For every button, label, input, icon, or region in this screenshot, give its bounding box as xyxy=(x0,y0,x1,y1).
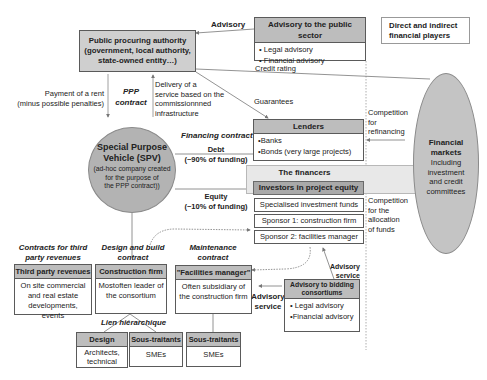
sous-traitants-facilities-box: Sous-traitants SMEs xyxy=(186,332,241,367)
advisory-public-sector-box: Advisory to the public sector • Legal ad… xyxy=(254,17,366,61)
public-authority-title: Public procuring authority xyxy=(80,36,195,46)
advisory-bidding-title-line2: consortiums xyxy=(285,289,359,297)
advisory-label: Advisory xyxy=(211,20,245,30)
design-build-label: Design and build contract xyxy=(98,243,168,262)
lenders-box: Lenders •Banks •Bonds (very large projec… xyxy=(253,119,364,161)
third-party-contracts-label: Contracts for third party revenues xyxy=(10,243,96,262)
lenders-item: •Banks xyxy=(258,136,359,147)
delivery-label: Delivery of a service based on the commi… xyxy=(155,80,224,118)
investors-header: Investors in project equity xyxy=(253,181,364,195)
credit-rating-label: Credit rating xyxy=(255,64,296,74)
advisory-service-label-top: Advisory service xyxy=(322,263,360,280)
advisory-bidding-box: Advisory to bidding consortiums • Legal … xyxy=(284,279,360,332)
competition-refinancing-label: Competition for refinancing xyxy=(368,108,408,137)
advisory-service-label-side: Advisory service xyxy=(251,292,285,312)
investor-item-funds: Specialised investment funds xyxy=(254,198,364,212)
spv-circle: Special Purpose Vehicle (SPV) (ad-hoc co… xyxy=(88,127,176,213)
spv-title-line2: Vehicle (SPV) xyxy=(89,153,175,164)
financial-markets-ellipse: Financial markets Including investment a… xyxy=(413,73,479,254)
financial-markets-title-line2: markets xyxy=(414,148,478,158)
lenders-title: Lenders xyxy=(254,120,363,134)
financial-markets-title-line1: Financial xyxy=(414,138,478,148)
financers-title: The financers xyxy=(247,168,362,178)
construction-title: Construction firm xyxy=(96,265,166,279)
sous-traitants-construction-box: Sous-traitants SMEs xyxy=(129,332,183,367)
advisory-bidding-title-line1: Advisory to bidding xyxy=(285,281,359,289)
guarantees-label: Guarantees xyxy=(254,97,293,107)
lenders-item: •Bonds (very large projects) xyxy=(258,147,359,158)
public-procuring-authority-box: Public procuring authority (government, … xyxy=(79,30,196,72)
advisory-bidding-item: • Legal advisory xyxy=(290,301,354,312)
financing-contract-label: Financing contract xyxy=(181,131,253,141)
facilities-manager-box: "Facilities manager" Often subsidiary of… xyxy=(175,265,252,314)
public-authority-line2: (government, local authority, xyxy=(80,46,195,56)
facilities-title: "Facilities manager" xyxy=(176,266,251,280)
ppp-contract-label: PPP contract xyxy=(113,86,149,108)
advisory-bidding-item: •Financial advisory xyxy=(290,312,354,323)
sous-traitants-2-title: Sous-traitants xyxy=(187,333,240,347)
financial-players-line2: financial players xyxy=(389,31,469,41)
advisory-public-item: • Legal advisory xyxy=(259,45,361,56)
payment-label: Payment of a rent (minus possible penalt… xyxy=(8,89,104,108)
competition-allocation-label: Competition for the allocation of funds xyxy=(368,196,408,234)
financial-players-line1: Direct and indirect xyxy=(389,21,469,31)
investor-item-sponsor2: Sponsor 2: facilities manager xyxy=(254,230,364,244)
sous-traitants-1-title: Sous-traitants xyxy=(130,333,182,347)
debt-label: Debt (~90% of funding) xyxy=(177,145,255,164)
third-party-revenues-box: Third party revenues On site commercial … xyxy=(14,264,92,315)
financial-players-box: Direct and indirect financial players xyxy=(381,17,470,44)
design-title: Design xyxy=(77,333,127,347)
design-box: Design Architects, technical xyxy=(76,332,128,368)
third-party-title: Third party revenues xyxy=(15,265,91,279)
spv-title-line1: Special Purpose xyxy=(89,142,175,153)
investor-item-sponsor1: Sponsor 1: construction firm xyxy=(254,214,364,228)
lien-hierarchique-label: Lien hiérarchique xyxy=(101,318,166,328)
equity-label: Equity (~10% of funding) xyxy=(177,192,255,211)
maintenance-label: Maintenance contract xyxy=(178,243,248,262)
construction-firm-box: Construction firm Mostoften leader of th… xyxy=(95,264,167,314)
advisory-public-sector-title: Advisory to the public sector xyxy=(255,18,365,43)
public-authority-line3: state-owned entity…) xyxy=(80,56,195,66)
